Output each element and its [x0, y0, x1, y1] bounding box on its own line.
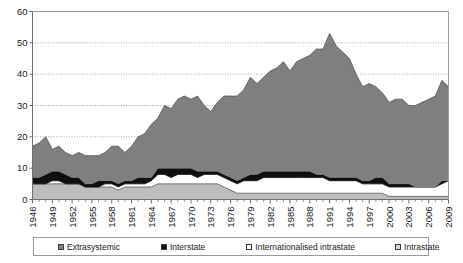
legend-item-interstate[interactable]: Interstate: [161, 242, 205, 252]
x-tick-label: 1991: [324, 207, 335, 228]
x-tick-label: 1976: [225, 207, 236, 228]
x-tick-label: 1973: [205, 207, 216, 228]
chart-page: 0102030405060194619491952195519581961196…: [0, 0, 463, 263]
x-tick-label: 1952: [67, 207, 78, 228]
legend-swatch-extrasystemic: [58, 244, 64, 250]
legend-item-intrastate[interactable]: Intrastate: [395, 242, 439, 252]
legend-label-interstate: Interstate: [170, 242, 205, 252]
legend-label-intrastate: Intrastate: [404, 242, 439, 252]
x-tick-label: 1979: [245, 207, 256, 228]
y-tick-label: 50: [17, 37, 28, 48]
y-tick-label: 10: [17, 162, 28, 173]
legend-label-internationalised-intrastate: Internationalised intrastate: [255, 242, 355, 252]
x-tick-label: 1967: [166, 207, 177, 228]
x-tick-label: 1985: [285, 207, 296, 228]
x-tick-label: 1949: [47, 207, 58, 228]
y-tick-label: 30: [17, 100, 28, 111]
x-axis: 1946194919521955195819611964196719701973…: [27, 200, 454, 228]
x-tick-label: 1994: [344, 207, 355, 228]
x-tick-label: 1964: [146, 207, 157, 228]
x-tick-label: 2009: [443, 207, 454, 228]
legend-label-extrasystemic: Extrasystemic: [67, 242, 120, 252]
x-tick-label: 2003: [403, 207, 414, 228]
x-tick-label: 2000: [384, 207, 395, 228]
legend-swatch-intrastate: [395, 244, 401, 250]
y-axis: 0102030405060: [17, 6, 33, 205]
x-tick-label: 1961: [126, 207, 137, 228]
y-tick-label: 40: [17, 68, 28, 79]
x-tick-label: 1958: [106, 207, 117, 228]
legend-swatch-internationalised-intrastate: [246, 244, 252, 250]
x-tick-label: 1946: [27, 207, 38, 228]
x-tick-label: 1997: [364, 207, 375, 228]
legend-item-internationalised-intrastate[interactable]: Internationalised intrastate: [246, 242, 355, 252]
legend-item-extrasystemic[interactable]: Extrasystemic: [58, 242, 120, 252]
chart-legend: Extrasystemic Interstate Internationalis…: [33, 237, 429, 256]
x-tick-label: 1988: [304, 207, 315, 228]
x-tick-label: 1982: [265, 207, 276, 228]
x-tick-label: 1955: [87, 207, 98, 228]
y-tick-label: 0: [22, 194, 27, 205]
y-tick-label: 20: [17, 131, 28, 142]
legend-swatch-interstate: [161, 244, 167, 250]
x-tick-label: 2006: [423, 207, 434, 228]
plot-area: 0102030405060194619491952195519581961196…: [0, 0, 463, 232]
x-tick-label: 1970: [186, 207, 197, 228]
stacked-area-chart: 0102030405060194619491952195519581961196…: [0, 0, 463, 232]
y-tick-label: 60: [17, 6, 28, 17]
